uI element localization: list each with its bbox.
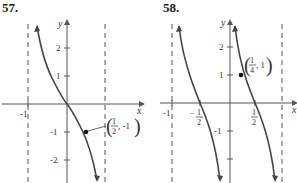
svg-text:, -1: , -1 xyxy=(118,121,130,131)
point-quarter-1 xyxy=(239,73,244,78)
svg-text:-2: -2 xyxy=(50,155,58,165)
svg-text:): ) xyxy=(266,54,273,77)
svg-text:y: y xyxy=(220,17,226,28)
svg-text:-1: -1 xyxy=(50,127,58,137)
svg-text:-1: -1 xyxy=(214,126,222,136)
svg-text:x: x xyxy=(291,104,297,115)
svg-text:1: 1 xyxy=(219,70,224,80)
svg-text:, 1: , 1 xyxy=(256,60,265,70)
svg-text:1: 1 xyxy=(56,71,61,81)
svg-text:1: 1 xyxy=(112,117,116,126)
svg-text:2: 2 xyxy=(219,42,224,52)
svg-text:-1: -1 xyxy=(20,109,28,119)
graph-57: 57. y x -1 2 1 -1 -2 ( xyxy=(0,0,148,183)
plot-58: y x -1 − 1 2 1 2 2 1 -1 ( 1 4 , 1 ) xyxy=(147,0,297,183)
svg-text:−: − xyxy=(190,109,195,118)
svg-text:1: 1 xyxy=(197,108,201,117)
svg-text:2: 2 xyxy=(252,118,256,127)
svg-text:2: 2 xyxy=(112,127,116,136)
svg-text:1: 1 xyxy=(252,108,256,117)
point-half-neg1 xyxy=(84,130,89,135)
svg-text:2: 2 xyxy=(197,118,201,127)
svg-text:1: 1 xyxy=(250,56,254,65)
graph-58: 58. y x -1 − 1 xyxy=(147,0,297,183)
svg-text:2: 2 xyxy=(56,43,61,53)
svg-text:-1: -1 xyxy=(163,108,171,118)
svg-text:y: y xyxy=(57,18,63,29)
svg-text:4: 4 xyxy=(250,66,254,75)
plot-57: y x -1 2 1 -1 -2 ( 1 2 , -1 ) xyxy=(0,0,148,183)
svg-text:): ) xyxy=(134,115,141,138)
